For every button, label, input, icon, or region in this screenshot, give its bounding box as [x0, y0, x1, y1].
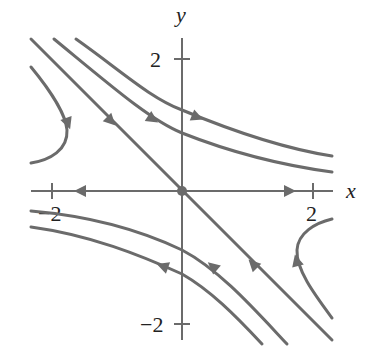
x-axis-label: x [345, 178, 356, 203]
phase-portrait-svg: 2 −2 −2 2 x y [0, 0, 370, 360]
y-tick-label-neg2: −2 [140, 312, 163, 337]
upper-left-hook [31, 67, 67, 163]
y-axis-label: y [174, 2, 186, 27]
arrow-icon [155, 258, 170, 273]
y-tick-label-2: 2 [150, 47, 161, 72]
upper-curve-2 [76, 39, 332, 156]
arrow-icon [74, 185, 86, 197]
phase-portrait: 2 −2 −2 2 x y [0, 0, 370, 360]
equilibrium-point [177, 186, 187, 196]
x-tick-label-2: 2 [306, 201, 317, 226]
arrow-icon [244, 255, 261, 272]
arrow-icon [284, 185, 296, 197]
lower-right-hook [297, 219, 332, 318]
